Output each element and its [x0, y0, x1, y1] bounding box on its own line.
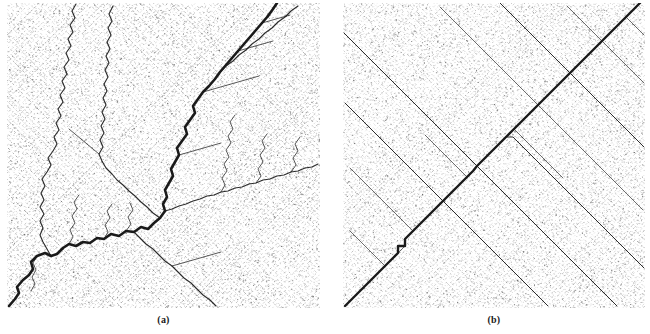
- panel-b: [343, 3, 645, 308]
- panel-a-caption: (a): [7, 314, 320, 326]
- panel-a: [7, 3, 320, 308]
- figure-root: (a) (b): [0, 0, 650, 334]
- panel-b-caption: (b): [343, 314, 645, 326]
- panel-b-plot: [343, 3, 645, 308]
- panel-a-plot: [7, 3, 320, 308]
